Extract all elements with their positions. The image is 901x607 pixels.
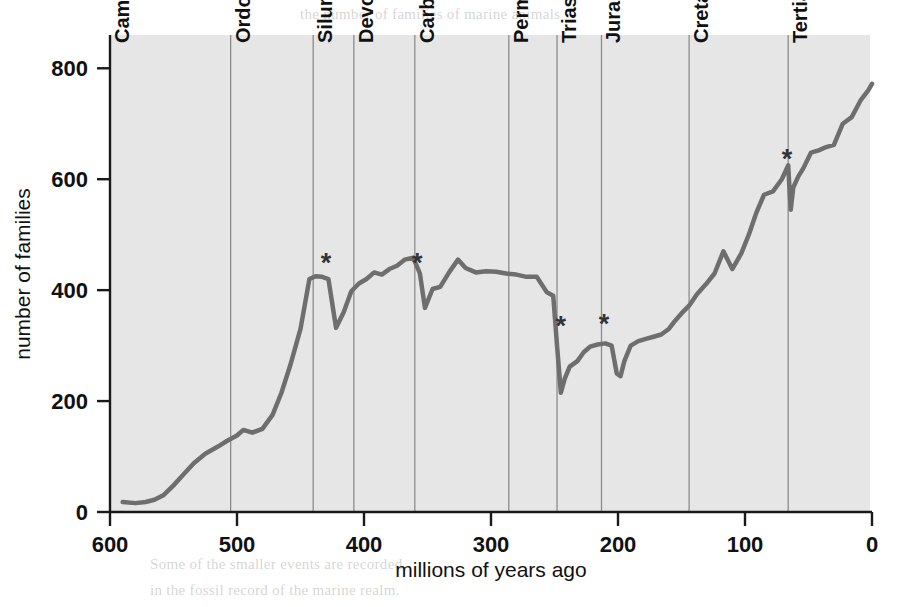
x-axis-tick-label: 300	[473, 532, 510, 557]
y-axis-tick-label: 400	[51, 278, 88, 303]
end-ordovician-extinction-marker: *	[321, 248, 332, 278]
y-axis-tick-label: 600	[51, 167, 88, 192]
x-axis-title: millions of years ago	[395, 558, 586, 581]
period-label-jurassic: Jurassic	[602, 0, 624, 43]
end-permian-extinction-marker: *	[556, 311, 567, 341]
x-axis-tick-label: 600	[92, 532, 129, 557]
period-label-tertiary: Tertiary	[789, 0, 811, 43]
end-cretaceous-extinction-marker: *	[782, 144, 793, 174]
end-triassic-extinction-marker: *	[599, 309, 610, 339]
chart-svg: 0200400600800 6005004003002001000 Cambri…	[0, 0, 901, 607]
period-label-cambrian: Cambrian	[111, 0, 133, 43]
y-axis-tick-label: 0	[76, 500, 88, 525]
x-axis-tick-label: 200	[600, 532, 637, 557]
x-axis-tick-label: 500	[219, 532, 256, 557]
period-label-carboniferous: Carboniferous	[416, 0, 438, 43]
y-axis-ticks: 0200400600800	[51, 56, 110, 525]
period-label-silurian: Silurian	[314, 0, 336, 43]
x-axis-tick-label: 0	[866, 532, 878, 557]
y-axis-tick-label: 800	[51, 56, 88, 81]
period-label-cretaceous: Cretaceous	[690, 0, 712, 43]
figure-container: the number of families of marine animals…	[0, 0, 901, 607]
period-label-permian: Permian	[510, 0, 532, 43]
period-label-triassic: Triassic	[558, 0, 580, 43]
late-devonian-extinction-marker: *	[412, 248, 423, 278]
x-axis-ticks: 6005004003002001000	[92, 512, 878, 557]
x-axis-tick-label: 100	[727, 532, 764, 557]
y-axis-title: number of families	[11, 188, 34, 360]
x-axis-tick-label: 400	[346, 532, 383, 557]
period-label-devonian: Devonian	[355, 0, 377, 43]
y-axis-tick-label: 200	[51, 389, 88, 414]
period-label-ordovician: Ordovician	[232, 0, 254, 43]
